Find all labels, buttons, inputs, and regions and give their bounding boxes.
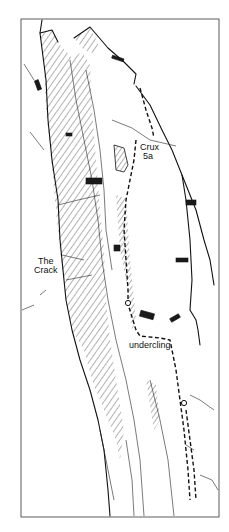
overhang-block	[86, 178, 102, 184]
label-the-crack-line2: Crack	[34, 266, 58, 275]
label-undercling: undercling	[129, 341, 171, 350]
route-line-start	[186, 410, 196, 500]
shaded-face-left	[40, 30, 124, 460]
overhang-block	[170, 314, 181, 322]
label-crux-grade: 5a	[140, 152, 159, 161]
belay-circle	[181, 400, 186, 405]
overhang-block	[186, 200, 196, 205]
overhang-block	[139, 310, 154, 319]
shaded-face-lower	[146, 380, 160, 430]
label-crux: Crux 5a	[140, 143, 159, 161]
overhang-block	[114, 245, 120, 251]
overhang-block	[34, 80, 41, 91]
overhang-block	[66, 133, 72, 136]
belay-circle	[125, 300, 130, 305]
shaded-block-crux	[114, 145, 128, 172]
shaded-face-top	[74, 27, 100, 54]
overhang-block	[176, 258, 188, 262]
label-the-crack: The Crack	[34, 257, 58, 275]
